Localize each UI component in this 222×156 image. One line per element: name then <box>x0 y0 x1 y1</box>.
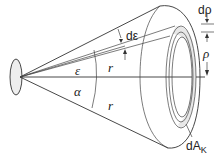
alpha-label: α <box>74 84 82 99</box>
cone-diagram: dε ε α r r dρ ρ dAK <box>0 0 222 156</box>
d-epsilon-label: dε <box>126 29 139 43</box>
dA-label: dAK <box>186 139 207 155</box>
d-epsilon-arrow-top <box>118 29 121 38</box>
rho-arrowhead <box>205 70 209 76</box>
dA-pointer <box>186 124 192 137</box>
r-upper-label: r <box>108 60 114 75</box>
d-rho-arrowhead-top <box>205 19 209 23</box>
d-epsilon-arrowhead-top <box>119 39 123 43</box>
d-rho-label: dρ <box>198 3 212 17</box>
d-rho-arrowhead-bottom <box>205 33 209 38</box>
cone-edge-bottom <box>20 77 168 148</box>
rho-label: ρ <box>202 46 209 61</box>
ray-upper-1 <box>20 26 175 77</box>
r-lower-label: r <box>108 98 114 113</box>
epsilon-label: ε <box>75 63 81 78</box>
cone-edge-top <box>20 6 160 77</box>
d-epsilon-arrowhead-bottom <box>123 49 127 54</box>
arc-angle <box>92 50 97 108</box>
